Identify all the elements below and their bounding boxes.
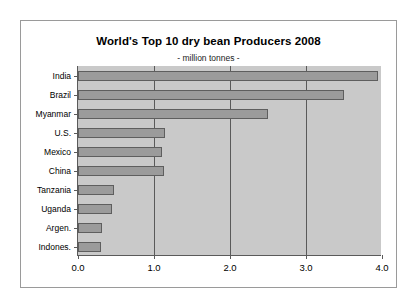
y-axis-label: Argen. [46, 223, 71, 233]
x-axis-tick [230, 255, 231, 259]
y-axis-tick [74, 152, 78, 153]
bar-row: Uganda [78, 199, 381, 218]
bar-myanmar[interactable] [78, 109, 268, 119]
y-axis-tick [74, 247, 78, 248]
x-axis-label: 0.0 [71, 262, 84, 273]
bar-row: Tanzania [78, 180, 381, 199]
y-axis-label: Brazil [50, 90, 71, 100]
bar-row: U.S. [78, 123, 381, 142]
bar-row: India [78, 66, 381, 85]
y-axis-label: Mexico [44, 147, 71, 157]
y-axis-label: India [53, 71, 71, 81]
y-axis-tick [74, 76, 78, 77]
x-axis-label: 3.0 [299, 262, 312, 273]
x-axis-tick [154, 255, 155, 259]
y-axis-tick [74, 95, 78, 96]
chart-subtitle: - million tonnes - [21, 53, 396, 63]
bar-row: Argen. [78, 218, 381, 237]
chart-frame: World's Top 10 dry bean Producers 2008 -… [20, 20, 397, 288]
y-axis-tick [74, 133, 78, 134]
bar-uganda[interactable] [78, 204, 112, 214]
bar-row: China [78, 161, 381, 180]
bar-row: Mexico [78, 142, 381, 161]
bar-argen[interactable] [78, 223, 102, 233]
bar-tanzania[interactable] [78, 185, 114, 195]
x-axis-tick [382, 255, 383, 259]
y-axis-label: Indones. [38, 242, 71, 252]
y-axis-label: Tanzania [37, 185, 71, 195]
bar-brazil[interactable] [78, 90, 344, 100]
x-axis-label: 4.0 [375, 262, 388, 273]
bar-china[interactable] [78, 166, 164, 176]
bar-series: IndiaBrazilMyanmarU.S.MexicoChinaTanzani… [78, 66, 381, 255]
y-axis-tick [74, 228, 78, 229]
y-axis-tick [74, 209, 78, 210]
y-axis-tick [74, 171, 78, 172]
bar-india[interactable] [78, 71, 378, 81]
x-axis-label: 1.0 [147, 262, 160, 273]
bar-row: Brazil [78, 85, 381, 104]
bar-indones[interactable] [78, 242, 101, 252]
plot-area: IndiaBrazilMyanmarU.S.MexicoChinaTanzani… [77, 66, 381, 256]
bar-row: Indones. [78, 237, 381, 256]
bar-u-s[interactable] [78, 128, 165, 138]
y-axis-tick [74, 114, 78, 115]
y-axis-label: Uganda [41, 204, 71, 214]
x-axis-tick [78, 255, 79, 259]
bar-mexico[interactable] [78, 147, 162, 157]
y-axis-label: Myanmar [36, 109, 71, 119]
bar-row: Myanmar [78, 104, 381, 123]
x-axis-label: 2.0 [223, 262, 236, 273]
x-axis-tick [306, 255, 307, 259]
y-axis-tick [74, 190, 78, 191]
chart-title: World's Top 10 dry bean Producers 2008 [21, 35, 396, 47]
y-axis-label: China [49, 166, 71, 176]
y-axis-label: U.S. [54, 128, 71, 138]
